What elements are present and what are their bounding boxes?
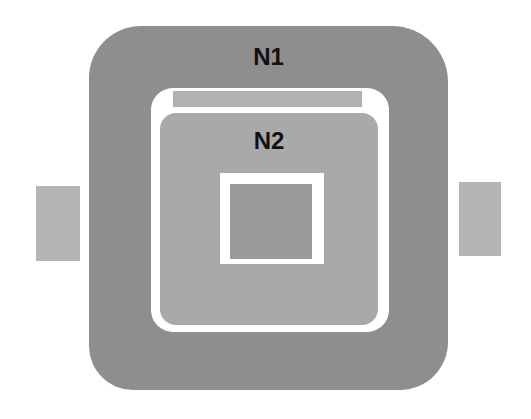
core-square [230, 184, 312, 259]
top-bar [173, 91, 362, 107]
right-side-tab [459, 182, 501, 256]
n1-label: N1 [89, 43, 448, 71]
left-side-tab [36, 186, 80, 261]
n2-label: N2 [160, 127, 378, 155]
